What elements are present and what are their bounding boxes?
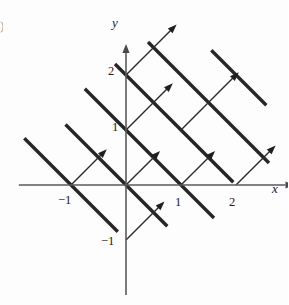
graph-canvas (0, 0, 288, 305)
y-axis-label: y (112, 16, 118, 29)
tick-label-y-1: 1 (112, 121, 118, 134)
gradient-vector-shaft (126, 28, 173, 75)
gradient-vector-shaft (126, 154, 157, 185)
figure-root: ) x y 21−1−112 (0, 0, 288, 305)
tick-label-x-neg1: −1 (58, 194, 71, 207)
gradient-vector-shaft (126, 205, 161, 240)
gradient-vector-shaft (71, 153, 103, 185)
tick-label-x-1: 1 (175, 196, 181, 209)
x-axis-label: x (272, 182, 278, 195)
level-curve-line (211, 50, 266, 105)
gradient-vector-shaft (236, 149, 272, 185)
gradient-vector-group (71, 24, 276, 240)
axes-group (19, 44, 288, 295)
y-axis-arrowhead (122, 44, 129, 53)
tick-label-y-neg1: −1 (101, 235, 114, 248)
x-axis-arrowhead (286, 181, 289, 188)
tick-label-x-2: 2 (229, 196, 235, 209)
gradient-vector-shaft (181, 154, 212, 185)
gradient-vector-shaft (126, 87, 169, 130)
tick-label-y-2: 2 (108, 65, 114, 78)
